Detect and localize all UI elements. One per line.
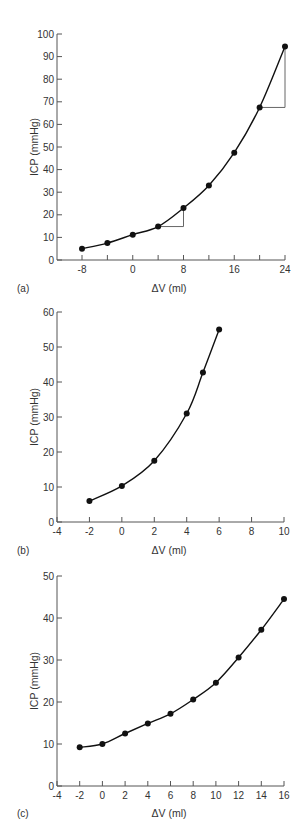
y-axis-label-c: ICP (mmHg) (28, 652, 40, 710)
x-axis-label-b: ΔV (ml) (151, 544, 186, 556)
labels-layer: ICP (mmHg) ΔV (ml) (a) ICP (mmHg) ΔV (ml… (0, 0, 307, 820)
x-axis-label-c: ΔV (ml) (151, 807, 186, 819)
panel-label-a: (a) (17, 283, 29, 294)
y-axis-label-b: ICP (mmHg) (28, 388, 40, 446)
panel-label-b: (b) (17, 545, 29, 556)
panel-label-c: (c) (17, 808, 29, 819)
x-axis-label-a: ΔV (ml) (151, 282, 186, 294)
y-axis-label-a: ICP (mmHg) (28, 118, 40, 176)
